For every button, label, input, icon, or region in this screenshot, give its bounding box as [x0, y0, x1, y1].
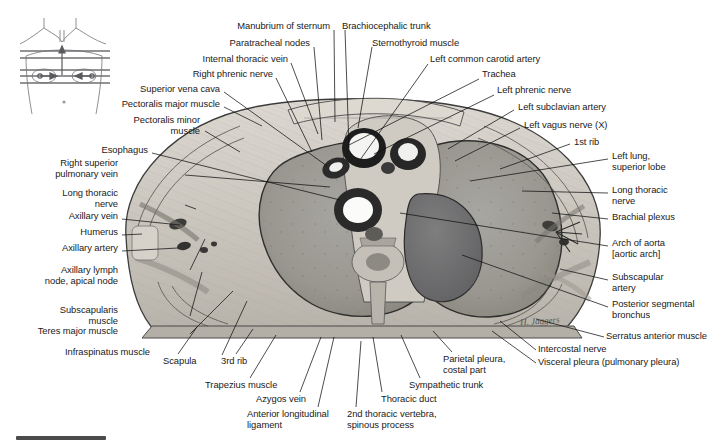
label-right-superior-pulmonary-vein: Right superior pulmonary vein	[28, 157, 118, 179]
label-subscapular-artery: Subscapular artery	[612, 271, 664, 293]
label-intercostal-nerve: Intercostal nerve	[538, 343, 606, 354]
label-left-lung-superior-lobe: Left lung, superior lobe	[612, 150, 666, 172]
label-internal-thoracic-vein: Internal thoracic vein	[120, 53, 288, 64]
label-brachial-plexus: Brachial plexus	[612, 211, 675, 222]
label-pectoralis-minor-muscle: Pectoralis minor muscle	[76, 114, 200, 136]
label-left-vagus-nerve: Left vagus nerve (X)	[524, 119, 607, 130]
label-trapezius-muscle: Trapezius muscle	[205, 379, 277, 390]
label-sympathetic-trunk: Sympathetic trunk	[409, 379, 483, 390]
label-superior-vena-cava: Superior vena cava	[96, 83, 220, 94]
label-axillary-lymph-node: Axillary lymph node, apical node	[6, 264, 118, 286]
label-subscapularis-muscle: Subscapularis muscle	[22, 304, 118, 326]
label-axillary-artery: Axillary artery	[28, 242, 118, 253]
bottom-progress-bar	[16, 436, 106, 440]
label-scapula: Scapula	[163, 355, 197, 366]
label-visceral-pleura: Visceral pleura (pulmonary pleura)	[538, 356, 679, 367]
label-left-phrenic-nerve: Left phrenic nerve	[497, 84, 571, 95]
label-posterior-segmental-bronchus: Posterior segmental bronchus	[612, 298, 694, 320]
label-axillary-vein: Axillary vein	[28, 210, 118, 221]
label-parietal-pleura-costal-part: Parietal pleura, costal part	[443, 353, 505, 375]
label-sternothyroid-muscle: Sternothyroid muscle	[372, 37, 459, 48]
label-azygos-vein: Azygos vein	[256, 393, 306, 404]
label-2nd-thoracic-vertebra: 2nd thoracic vertebra, spinous process	[347, 408, 437, 430]
label-left-common-carotid-artery: Left common carotid artery	[430, 53, 540, 64]
label-thoracic-duct: Thoracic duct	[381, 393, 437, 404]
label-pectoralis-major-muscle: Pectoralis major muscle	[76, 98, 220, 109]
label-teres-major-muscle: Teres major muscle	[8, 325, 118, 336]
label-infraspinatus-muscle: Infraspinatus muscle	[36, 346, 150, 357]
label-trachea: Trachea	[482, 68, 516, 79]
label-esophagus: Esophagus	[48, 144, 148, 155]
label-right-phrenic-nerve: Right phrenic nerve	[110, 68, 273, 79]
label-anterior-longitudinal-ligament: Anterior longitudinal ligament	[247, 408, 329, 430]
label-serratus-anterior-muscle: Serratus anterior muscle	[606, 330, 707, 341]
label-left-subclavian-artery: Left subclavian artery	[518, 101, 606, 112]
label-long-thoracic-nerve-right: Long thoracic nerve	[612, 184, 668, 206]
label-arch-of-aorta: Arch of aorta [aortic arch]	[612, 237, 665, 259]
anatomy-figure-page: H. Jaggers	[0, 0, 724, 445]
label-humerus: Humerus	[28, 226, 118, 237]
label-paratracheal-nodes: Paratracheal nodes	[140, 37, 310, 48]
label-1st-rib: 1st rib	[574, 136, 599, 147]
label-long-thoracic-nerve-left: Long thoracic nerve	[28, 187, 118, 209]
label-manubrium-of-sternum: Manubrium of sternum	[150, 20, 330, 31]
label-brachiocephalic-trunk: Brachiocephalic trunk	[342, 20, 431, 31]
label-3rd-rib: 3rd rib	[221, 355, 247, 366]
